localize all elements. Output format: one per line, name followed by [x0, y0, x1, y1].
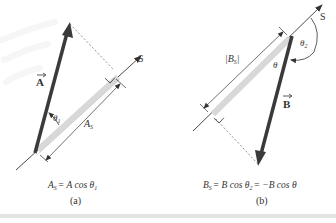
s-axis-label: S [320, 11, 326, 22]
projection-label-bs: |BS| [225, 53, 240, 65]
vector-a-arrowhead [62, 22, 73, 38]
theta1-label: θ1 [53, 113, 60, 124]
caption-b: (b) [256, 195, 268, 207]
vector-b-arrowhead [255, 150, 266, 166]
panel-b: S θ2 θ B |BS| BS= B cos θ2= −B cos θ (b) [193, 5, 326, 207]
perpendicular-dashed-line [70, 24, 114, 70]
caption-a: (a) [70, 195, 81, 207]
dimension-line [204, 32, 283, 108]
projection-label-as: AS [83, 118, 93, 130]
projection-bar [213, 38, 290, 114]
bottom-divider [0, 214, 336, 218]
vector-a-label: A [36, 76, 44, 88]
background-sketch [2, 22, 55, 82]
equation-b: BS= B cos θ2= −B cos θ [203, 180, 297, 191]
right-angle-mark [214, 118, 224, 123]
vector-projection-figure: A S θ1 AS AS= A cos θ1 (a) [0, 0, 336, 223]
theta2-label: θ2 [300, 38, 307, 49]
perpendicular-dashed-line [215, 118, 258, 164]
vector-b-label: B [283, 98, 291, 110]
theta-label: θ [273, 60, 278, 70]
equation-a: AS= A cos θ1 [47, 180, 97, 191]
s-axis-label: S [138, 53, 144, 64]
